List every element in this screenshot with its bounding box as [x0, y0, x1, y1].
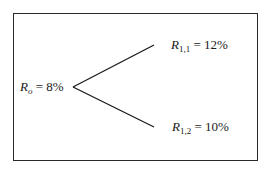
down-value: 10%	[205, 119, 229, 134]
up-value: 12%	[204, 37, 228, 52]
root-subscript: o	[28, 86, 33, 96]
down-subscript: 1,2	[180, 126, 191, 136]
root-node-label: Ro = 8%	[20, 80, 64, 93]
root-value: 8%	[46, 79, 63, 94]
down-node-label: R1,2 = 10%	[172, 120, 229, 133]
up-branch-line	[73, 45, 154, 87]
root-symbol: R	[20, 79, 28, 94]
down-symbol: R	[172, 119, 180, 134]
up-symbol: R	[171, 37, 179, 52]
up-node-label: R1,1 = 12%	[171, 38, 228, 51]
up-subscript: 1,1	[179, 44, 190, 54]
up-equals: =	[190, 37, 204, 52]
down-branch-line	[73, 87, 154, 127]
down-equals: =	[191, 119, 205, 134]
root-equals: =	[32, 79, 46, 94]
